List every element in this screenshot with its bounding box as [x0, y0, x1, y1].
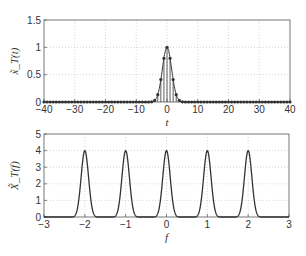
stem-marker: [212, 100, 215, 103]
stem-marker: [162, 57, 165, 60]
y-tick-label: 0: [35, 212, 41, 223]
stem-marker: [122, 100, 125, 103]
x-tick-label: −10: [128, 104, 145, 115]
stem-marker: [258, 100, 261, 103]
stem-marker: [82, 100, 85, 103]
y-tick-label: 5: [35, 129, 41, 140]
stem-marker: [107, 100, 110, 103]
stem-marker: [156, 93, 159, 96]
stem-marker: [230, 100, 233, 103]
stem-marker: [79, 100, 82, 103]
x-tick-label: 20: [223, 104, 235, 115]
stem-marker: [224, 100, 227, 103]
x-tick-label: −2: [79, 219, 91, 230]
stem-marker: [276, 100, 279, 103]
stem-marker: [202, 100, 205, 103]
stem-marker: [153, 99, 156, 102]
stem-marker: [221, 100, 224, 103]
stem-marker: [113, 100, 116, 103]
stem-marker: [101, 100, 104, 103]
stem-marker: [159, 78, 162, 81]
stem-marker: [264, 100, 267, 103]
stem-marker: [245, 100, 248, 103]
y-tick-label: 0: [35, 97, 41, 108]
stem-marker: [282, 100, 285, 103]
stem-marker: [125, 100, 128, 103]
x-tick-label: 30: [254, 104, 266, 115]
stem-marker: [73, 100, 76, 103]
frequency-domain-plot: −3−2−10123012345fX̃_T(f): [8, 129, 292, 244]
stem-marker: [138, 100, 141, 103]
x-tick-label: 1: [205, 219, 211, 230]
stem-marker: [218, 100, 221, 103]
stem-marker: [76, 100, 79, 103]
y-tick-label: 1: [35, 42, 41, 53]
stem-marker: [55, 100, 58, 103]
stem-marker: [85, 100, 88, 103]
stem-marker: [141, 100, 144, 103]
x-tick-label: 0: [164, 219, 170, 230]
stem-marker: [165, 46, 168, 49]
stem-marker: [67, 100, 70, 103]
stem-marker: [119, 100, 122, 103]
stem-marker: [279, 100, 282, 103]
stem-marker: [215, 100, 218, 103]
stem-marker: [199, 100, 202, 103]
stem-marker: [193, 100, 196, 103]
spectrum-line: [44, 151, 289, 217]
x-axis-label: t: [165, 116, 169, 128]
stem-marker: [273, 100, 276, 103]
stem-marker: [285, 100, 288, 103]
y-tick-label: 2: [35, 178, 41, 189]
y-axis-label: X̃_T(f): [8, 161, 21, 191]
stem-marker: [144, 100, 147, 103]
y-tick-label: 0.5: [27, 69, 41, 80]
stem-marker: [45, 100, 48, 103]
stem-marker: [135, 100, 138, 103]
stem-marker: [187, 100, 190, 103]
x-tick-label: −1: [120, 219, 132, 230]
stem-marker: [178, 99, 181, 102]
stem-marker: [92, 100, 95, 103]
stem-marker: [288, 100, 291, 103]
stem-marker: [233, 100, 236, 103]
stem-marker: [70, 100, 73, 103]
x-tick-label: 3: [286, 219, 292, 230]
figure: −40−30−20−1001020304000.511.5tx̃_T(t)−3−…: [0, 0, 306, 256]
stem-marker: [248, 100, 251, 103]
stem-marker: [255, 100, 258, 103]
stem-marker: [267, 100, 270, 103]
stem-marker: [196, 100, 199, 103]
stem-marker: [61, 100, 64, 103]
stem-marker: [89, 100, 92, 103]
stem-marker: [190, 100, 193, 103]
stem-marker: [64, 100, 67, 103]
x-axis-label: f: [165, 231, 170, 243]
stem-marker: [205, 100, 208, 103]
stem-marker: [147, 100, 150, 103]
stem-marker: [42, 100, 45, 103]
stem-marker: [52, 100, 55, 103]
stem-marker: [227, 100, 230, 103]
x-tick-label: −20: [97, 104, 114, 115]
stem-marker: [98, 100, 101, 103]
stem-marker: [132, 100, 135, 103]
stem-marker: [49, 100, 52, 103]
x-tick-label: 10: [192, 104, 204, 115]
stem-marker: [150, 100, 153, 103]
stem-marker: [104, 100, 107, 103]
stem-marker: [110, 100, 113, 103]
stem-marker: [181, 100, 184, 103]
time-domain-plot: −40−30−20−1001020304000.511.5tx̃_T(t): [8, 15, 296, 129]
y-tick-label: 1: [35, 195, 41, 206]
stem-marker: [58, 100, 61, 103]
y-axis-label: x̃_T(t): [8, 47, 21, 75]
y-tick-label: 4: [35, 145, 41, 156]
stem-marker: [175, 93, 178, 96]
x-tick-label: 40: [284, 104, 296, 115]
y-tick-label: 1.5: [27, 15, 41, 26]
stem-marker: [242, 100, 245, 103]
stem-marker: [239, 100, 242, 103]
x-tick-label: 0: [164, 104, 170, 115]
stem-marker: [261, 100, 264, 103]
